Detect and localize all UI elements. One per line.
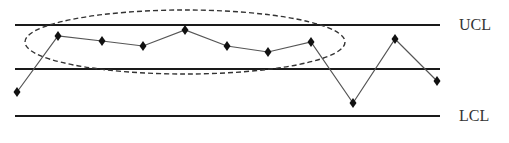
lcl-label: LCL [459,108,489,124]
ucl-label: UCL [459,17,491,33]
diamond-marker [265,47,272,57]
control-chart [0,0,509,143]
diamond-marker [182,25,189,35]
run-highlight-ellipse [25,10,345,74]
diamond-marker [434,76,441,86]
dashed-ellipse [25,10,345,74]
diamond-marker [140,41,147,51]
diamond-marker [224,41,231,51]
diamond-marker [99,36,106,46]
